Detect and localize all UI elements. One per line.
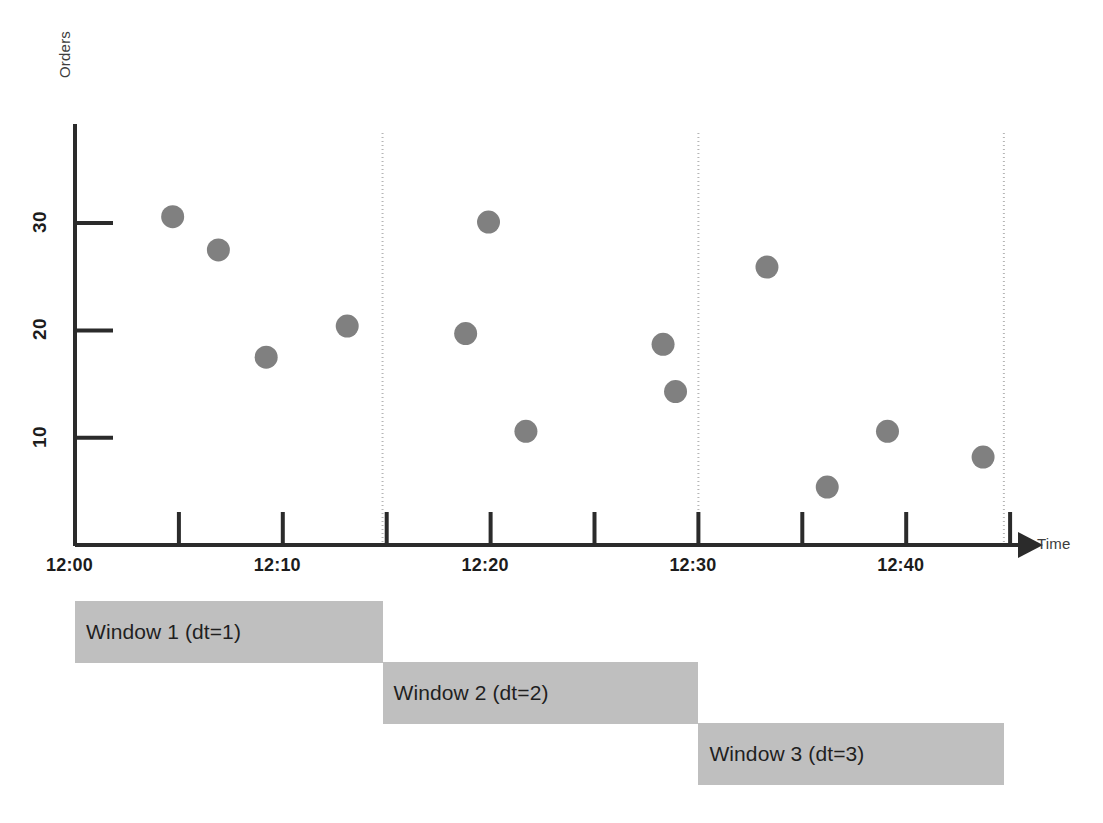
data-point <box>876 420 899 443</box>
data-point <box>664 380 687 403</box>
x-axis-tick-label: 12:10 <box>254 555 301 576</box>
data-point <box>652 333 675 356</box>
window-bar-label: Window 2 (dt=2) <box>383 681 549 705</box>
data-point <box>755 256 778 279</box>
x-axis-title: Time <box>1037 535 1071 552</box>
y-axis-ticks <box>75 223 113 438</box>
y-axis-tick-label: 10 <box>29 417 51 457</box>
x-axis-tick-label: 12:30 <box>669 555 716 576</box>
data-point <box>816 476 839 499</box>
data-point-group <box>161 205 994 498</box>
data-point <box>336 315 359 338</box>
data-point <box>454 322 477 345</box>
data-point <box>255 346 278 369</box>
x-axis-tick-label: 12:20 <box>462 555 509 576</box>
data-point <box>477 211 500 234</box>
chart-canvas: Orders Time 102030 12:0012:1012:2012:301… <box>0 0 1103 823</box>
y-axis-tick-label: 20 <box>29 309 51 349</box>
y-axis-tick-label: 30 <box>29 202 51 242</box>
window-bar-label: Window 3 (dt=3) <box>698 742 864 766</box>
window-bar-label: Window 1 (dt=1) <box>75 620 241 644</box>
window-bar[interactable]: Window 3 (dt=3) <box>698 723 1003 785</box>
x-axis-tick-label: 12:40 <box>877 555 924 576</box>
window-bar[interactable]: Window 1 (dt=1) <box>75 601 383 663</box>
y-axis-title: Orders <box>56 31 73 78</box>
x-axis-tick-label: 12:00 <box>46 555 93 576</box>
axis-lines <box>75 124 1043 558</box>
data-point <box>161 205 184 228</box>
window-bar[interactable]: Window 2 (dt=2) <box>383 662 699 724</box>
data-point <box>514 420 537 443</box>
x-axis-ticks <box>179 512 1010 545</box>
data-point <box>207 238 230 261</box>
data-point <box>972 446 995 469</box>
